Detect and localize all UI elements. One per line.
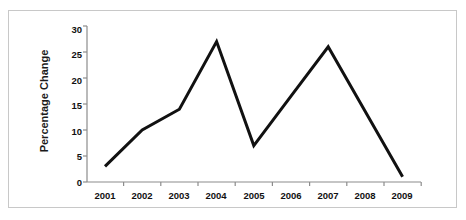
y-tick-label-15: 15 xyxy=(58,101,82,111)
y-tick-label-5: 5 xyxy=(58,152,82,162)
x-tick-label-2002: 2002 xyxy=(122,191,162,201)
y-tick-label-20: 20 xyxy=(58,76,82,86)
x-tick-label-2001: 2001 xyxy=(85,191,125,201)
x-tick-label-2004: 2004 xyxy=(196,191,236,201)
y-axis-title: Percentage Change xyxy=(36,26,52,176)
x-tick-label-2009: 2009 xyxy=(382,191,422,201)
chart-screenshot: Percentage Change 0 5 10 15 20 25 30 200… xyxy=(0,0,466,220)
y-tick-label-30: 30 xyxy=(58,25,82,35)
y-tick-label-10: 10 xyxy=(58,127,82,137)
y-tick-label-25: 25 xyxy=(58,50,82,60)
x-tick-label-2005: 2005 xyxy=(234,191,274,201)
x-tick-label-2003: 2003 xyxy=(159,191,199,201)
x-tick-label-2006: 2006 xyxy=(271,191,311,201)
x-tick-label-2007: 2007 xyxy=(308,191,348,201)
x-tick-label-2008: 2008 xyxy=(345,191,385,201)
y-axis-title-label: Percentage Change xyxy=(38,50,50,153)
y-tick-label-0: 0 xyxy=(58,178,82,188)
